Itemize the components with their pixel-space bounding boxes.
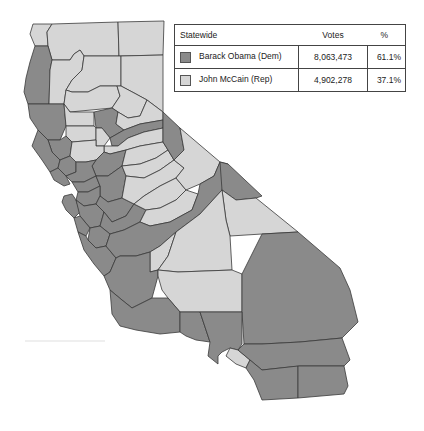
legend-header-row: Statewide Votes % — [175, 25, 406, 46]
legend-row-mccain: John McCain (Rep) 4,902,278 37.1% — [175, 69, 406, 92]
dem-swatch-icon — [180, 52, 191, 63]
candidate-name: John McCain (Rep) — [199, 74, 272, 84]
candidate-votes: 4,902,278 — [299, 69, 368, 92]
county-san-bernardino — [242, 232, 358, 344]
county-imperial — [298, 366, 348, 398]
county-colusa — [66, 126, 96, 142]
county-humboldt — [24, 46, 52, 104]
county-mendocino — [28, 104, 66, 140]
candidate-votes: 8,063,473 — [299, 46, 368, 69]
candidate-pct: 37.1% — [368, 69, 406, 92]
legend-header-statewide: Statewide — [175, 25, 299, 46]
candidate-name: Barack Obama (Dem) — [199, 51, 282, 61]
legend-header-pct: % — [368, 25, 406, 46]
legend-header-votes: Votes — [299, 25, 368, 46]
rep-swatch-icon — [180, 75, 191, 86]
print-bleed-artifact — [25, 340, 105, 342]
candidate-pct: 61.1% — [368, 46, 406, 69]
county-modoc — [118, 21, 164, 56]
statewide-results-legend: Statewide Votes % Barack Obama (Dem) 8,0… — [174, 24, 406, 92]
legend-row-obama: Barack Obama (Dem) 8,063,473 61.1% — [175, 46, 406, 69]
